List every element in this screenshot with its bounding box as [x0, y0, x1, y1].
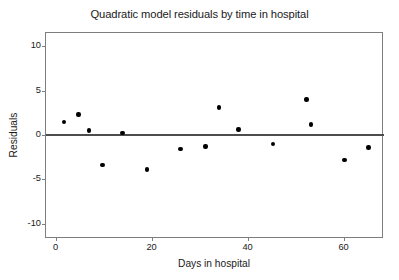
x-axis-tick-mark	[248, 237, 249, 241]
x-axis-label: Days in hospital	[45, 258, 383, 269]
x-axis-tick-mark	[56, 237, 57, 241]
chart-title: Quadratic model residuals by time in hos…	[0, 8, 399, 20]
y-axis-tick-mark	[42, 224, 46, 225]
y-axis-tick-label: -10	[28, 219, 41, 228]
x-axis-tick-label: 60	[338, 243, 348, 252]
y-axis-tick-label: 0	[36, 130, 41, 139]
x-axis-tick-label: 0	[53, 243, 58, 252]
data-point	[100, 163, 104, 167]
data-point	[217, 105, 221, 109]
y-axis-tick-mark	[42, 46, 46, 47]
x-axis-tick-label: 40	[242, 243, 252, 252]
y-axis-label: Residuals	[8, 113, 19, 158]
data-point	[145, 167, 149, 171]
x-axis-tick-label: 20	[146, 243, 156, 252]
zero-reference-line	[46, 134, 384, 136]
chart-figure: Quadratic model residuals by time in hos…	[0, 0, 399, 280]
data-point	[271, 142, 275, 146]
data-point	[309, 122, 313, 126]
plot-area	[46, 33, 382, 237]
y-axis-tick-mark	[42, 179, 46, 180]
x-axis-tick-mark	[344, 237, 345, 241]
data-point	[236, 127, 240, 131]
data-point	[76, 112, 80, 116]
x-axis-tick-mark	[152, 237, 153, 241]
y-axis-tick-label: -5	[33, 175, 41, 184]
y-axis-tick-label: 5	[36, 86, 41, 95]
y-axis-tick-mark	[42, 91, 46, 92]
data-point	[342, 158, 346, 162]
data-point	[304, 97, 308, 101]
data-point	[62, 120, 66, 124]
plot-frame: -10-505100204060	[45, 32, 383, 238]
data-point	[87, 128, 91, 132]
data-point	[366, 145, 370, 149]
data-point	[178, 147, 182, 151]
y-axis-tick-label: 10	[31, 42, 41, 51]
data-point	[203, 144, 207, 148]
data-point	[120, 131, 124, 135]
y-axis-tick-mark	[42, 135, 46, 136]
